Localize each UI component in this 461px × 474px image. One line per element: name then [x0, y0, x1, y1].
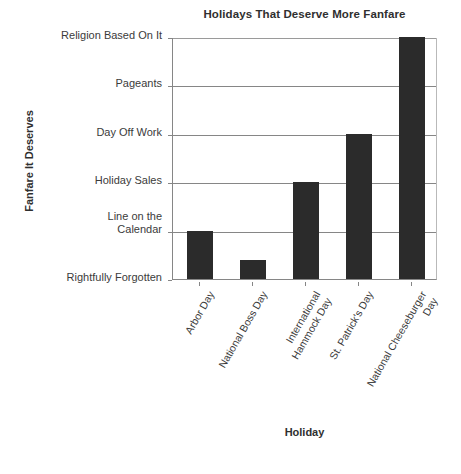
y-axis-tick-label: Line on the Calendar: [0, 210, 162, 236]
bar: [187, 231, 213, 279]
gridline: [173, 86, 436, 87]
plot-area: [172, 38, 437, 280]
bar: [399, 37, 425, 279]
chart-title: Holidays That Deserve More Fanfare: [172, 8, 437, 20]
x-axis-tick-mark: [305, 282, 306, 286]
x-axis-tick-label: National Cheeseburger Day: [358, 289, 440, 405]
bar: [240, 260, 266, 279]
x-axis-tick-labels: Arbor DayNational Boss DayInternational …: [172, 282, 437, 412]
x-axis-title: Holiday: [172, 426, 437, 438]
gridline: [173, 38, 436, 39]
bar: [293, 182, 319, 279]
x-axis-tick-mark: [252, 282, 253, 286]
gridline: [173, 135, 436, 136]
y-axis-tick-label: Religion Based On It: [0, 29, 162, 42]
x-axis-tick-mark: [411, 282, 412, 286]
y-axis-tick-label: Pageants: [0, 77, 162, 90]
y-axis-tick-label: Day Off Work: [0, 126, 162, 139]
x-axis-tick-mark: [199, 282, 200, 286]
x-axis-tick-mark: [358, 282, 359, 286]
bar-chart: Holidays That Deserve More Fanfare Fanfa…: [0, 0, 461, 474]
y-axis-tick-label: Holiday Sales: [0, 174, 162, 187]
y-axis-tick-labels: Rightfully ForgottenLine on the Calendar…: [0, 0, 168, 474]
y-axis-tick-label: Rightfully Forgotten: [0, 271, 162, 284]
bar: [346, 134, 372, 279]
y-axis-tick-mark: [168, 280, 172, 281]
